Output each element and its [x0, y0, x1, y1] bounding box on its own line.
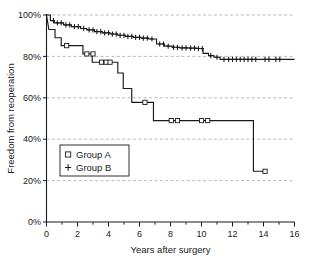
censor-marker: [199, 118, 203, 122]
legend-label-1: Group B: [76, 162, 111, 173]
x-tick-label-6: 6: [137, 229, 142, 239]
censor-marker: [263, 169, 267, 173]
x-tick-label-4: 4: [106, 229, 111, 239]
censor-marker: [85, 52, 89, 56]
censor-marker: [108, 60, 112, 64]
y-tick-label-40: 40%: [23, 134, 41, 144]
x-tick-label-14: 14: [258, 229, 268, 239]
x-tick-label-2: 2: [75, 229, 80, 239]
x-axis-title: Years after surgery: [131, 244, 211, 255]
x-tick-label-12: 12: [227, 229, 237, 239]
censor-marker: [99, 60, 103, 64]
y-tick-label-20: 20%: [23, 176, 41, 186]
x-tick-label-8: 8: [168, 229, 173, 239]
censor-marker: [169, 118, 173, 122]
chart-legend: Group AGroup B: [60, 145, 129, 176]
kaplan-meier-plot: 0%20%40%60%80%100% 0246810121416 Group A…: [0, 0, 311, 262]
censor-marker: [175, 118, 179, 122]
y-axis-title: Freedom from reoperation: [5, 63, 16, 173]
y-tick-label-100: 100%: [18, 10, 41, 20]
censor-marker: [65, 44, 69, 48]
x-tick-label-10: 10: [196, 229, 206, 239]
y-tick-label-60: 60%: [23, 93, 41, 103]
x-tick-label-16: 16: [289, 229, 299, 239]
censor-marker: [91, 52, 95, 56]
y-tick-label-0: 0%: [28, 217, 41, 227]
censor-marker: [206, 118, 210, 122]
x-tick-label-0: 0: [44, 229, 49, 239]
chart-figure: 0%20%40%60%80%100% 0246810121416 Group A…: [0, 0, 311, 262]
legend-label-0: Group A: [76, 149, 112, 160]
legend-square-icon: [66, 152, 71, 157]
y-tick-label-80: 80%: [23, 52, 41, 62]
censor-marker: [143, 100, 147, 104]
